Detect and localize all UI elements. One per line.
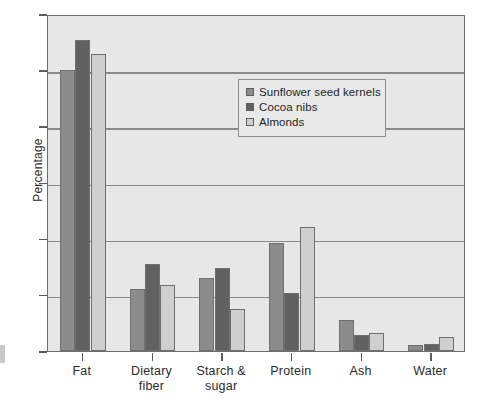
y-axis-tick-mark xyxy=(39,126,47,128)
x-axis-category-label: Protein xyxy=(256,364,326,379)
x-axis-tick-mark xyxy=(82,353,84,361)
x-axis-category-line: Protein xyxy=(256,364,326,379)
legend-item[interactable]: Almonds xyxy=(246,115,378,129)
bar xyxy=(369,333,384,351)
bar xyxy=(339,320,354,351)
bar-chart: Percentage 0102030405060 FatDietaryfiber… xyxy=(0,0,477,402)
x-axis-tick-mark xyxy=(291,353,293,361)
plot-area xyxy=(47,15,465,352)
x-axis-tick-mark xyxy=(430,353,432,361)
legend-swatch-icon xyxy=(246,118,254,126)
y-axis-tick-mark xyxy=(39,295,47,297)
x-axis-category-line: fiber xyxy=(117,379,187,394)
y-axis-tick-mark xyxy=(39,351,47,353)
x-axis-category-line: Dietary xyxy=(117,364,187,379)
bar xyxy=(130,289,145,351)
y-axis-tick-mark xyxy=(39,183,47,185)
bar xyxy=(284,293,299,351)
legend-item[interactable]: Sunflower seed kernels xyxy=(246,85,378,99)
page-scan-artifact xyxy=(0,345,5,363)
bar xyxy=(160,285,175,351)
x-axis-category-line: Ash xyxy=(326,364,396,379)
bar xyxy=(230,309,245,351)
bar xyxy=(439,337,454,351)
x-axis-category-line: Water xyxy=(395,364,465,379)
bar xyxy=(91,54,106,351)
gridline xyxy=(48,72,464,73)
x-axis-category-line: Starch & xyxy=(186,364,256,379)
y-axis-tick-mark xyxy=(39,239,47,241)
bar xyxy=(215,268,230,351)
y-axis-label: Percentage xyxy=(31,110,45,230)
gridline xyxy=(48,185,464,186)
bar xyxy=(145,264,160,351)
x-axis-category-label: Starch &sugar xyxy=(186,364,256,394)
legend-label: Sunflower seed kernels xyxy=(259,86,381,98)
x-axis-category-label: Dietaryfiber xyxy=(117,364,187,394)
x-axis-tick-mark xyxy=(361,353,363,361)
bar xyxy=(354,335,369,351)
y-axis-tick-mark xyxy=(39,14,47,16)
y-axis-tick-mark xyxy=(39,70,47,72)
bar xyxy=(60,70,75,351)
x-axis-category-label: Fat xyxy=(47,364,117,379)
chart-legend: Sunflower seed kernelsCocoa nibsAlmonds xyxy=(238,79,386,137)
x-axis-category-label: Ash xyxy=(326,364,396,379)
x-axis-category-line: sugar xyxy=(186,379,256,394)
x-axis-tick-mark xyxy=(152,353,154,361)
bar xyxy=(269,243,284,351)
x-axis-category-line: Fat xyxy=(47,364,117,379)
gridline xyxy=(48,241,464,242)
bar xyxy=(199,278,214,351)
legend-label: Almonds xyxy=(259,116,304,128)
bar xyxy=(424,344,439,351)
bar xyxy=(300,227,315,351)
x-axis-category-label: Water xyxy=(395,364,465,379)
legend-label: Cocoa nibs xyxy=(259,101,318,113)
x-axis-tick-mark xyxy=(221,353,223,361)
legend-item[interactable]: Cocoa nibs xyxy=(246,100,378,114)
bar xyxy=(75,40,90,351)
bar xyxy=(408,345,423,351)
gridline xyxy=(48,297,464,298)
legend-swatch-icon xyxy=(246,103,254,111)
legend-swatch-icon xyxy=(246,88,254,96)
